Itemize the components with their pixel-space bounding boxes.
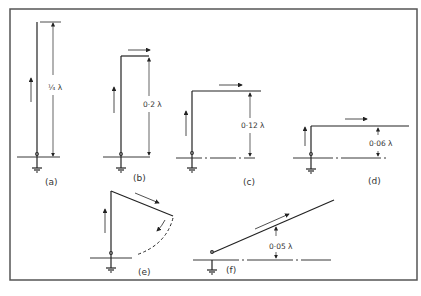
panel-b bbox=[103, 50, 150, 172]
dimension-label-d: 0·06 λ bbox=[369, 139, 393, 148]
dimension-label-f: 0·05 λ bbox=[269, 242, 293, 251]
panel-label-e: (e) bbox=[138, 267, 151, 277]
panel-label-f: (f) bbox=[226, 265, 236, 275]
panel-e bbox=[90, 191, 173, 272]
antenna-diagram: ¼ λ (a) 0·2 λ (b) 0·12 λ (c) bbox=[0, 0, 421, 296]
panel-label-a: (a) bbox=[45, 177, 58, 187]
panel-label-c: (c) bbox=[243, 177, 255, 187]
panel-label-b: (b) bbox=[133, 173, 146, 183]
panel-label-d: (d) bbox=[368, 176, 381, 186]
dimension-label-b: 0·2 λ bbox=[143, 100, 162, 109]
panel-f bbox=[193, 200, 334, 274]
dimension-label-c: 0·12 λ bbox=[241, 121, 265, 130]
dimension-label-a: ¼ λ bbox=[48, 83, 63, 92]
panel-a bbox=[17, 22, 61, 172]
figure-frame bbox=[10, 9, 417, 280]
